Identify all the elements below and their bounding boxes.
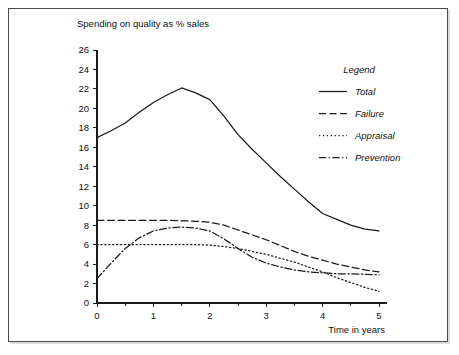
y-tick-label: 22 (78, 83, 89, 94)
x-axis-title: Time in years (328, 324, 385, 335)
legend-label-failure: Failure (355, 108, 384, 119)
figure-frame: Spending on quality as % sales0246810121… (8, 8, 448, 342)
legend-label-appraisal: Appraisal (354, 130, 395, 141)
y-tick-label: 16 (78, 142, 89, 153)
y-tick-label: 10 (78, 200, 89, 211)
y-tick-label: 14 (78, 161, 89, 172)
y-tick-label: 8 (84, 220, 89, 231)
legend-label-prevention: Prevention (355, 152, 400, 163)
series-line-prevention (97, 227, 379, 279)
x-tick-label: 4 (320, 310, 325, 321)
y-tick-label: 24 (78, 64, 89, 75)
y-tick-label: 0 (84, 297, 89, 308)
y-tick-label: 12 (78, 181, 89, 192)
x-tick-label: 3 (264, 310, 269, 321)
x-tick-label: 0 (94, 310, 99, 321)
legend-label-total: Total (355, 86, 376, 97)
y-tick-label: 4 (84, 258, 89, 269)
series-line-appraisal (97, 245, 379, 292)
y-tick-label: 18 (78, 122, 89, 133)
series-line-failure (97, 220, 379, 272)
series-line-total (97, 88, 379, 231)
x-tick-label: 5 (376, 310, 381, 321)
y-tick-label: 20 (78, 103, 89, 114)
chart-title: Spending on quality as % sales (77, 18, 209, 29)
line-chart: Spending on quality as % sales0246810121… (9, 9, 447, 341)
legend-title: Legend (343, 64, 375, 75)
y-tick-label: 2 (84, 278, 89, 289)
x-tick-label: 2 (207, 310, 212, 321)
y-tick-label: 26 (78, 44, 89, 55)
x-tick-label: 1 (151, 310, 156, 321)
y-tick-label: 6 (84, 239, 89, 250)
